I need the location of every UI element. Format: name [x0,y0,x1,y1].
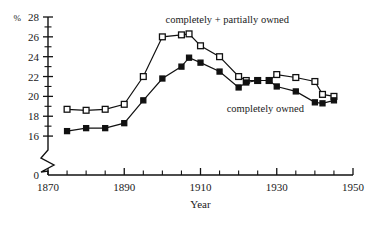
y-tick-label: 20 [28,90,40,102]
data-point-completely-owned-8 [198,60,203,65]
y-tick-label: 22 [28,71,39,83]
data-point-completely-owned-4 [141,98,146,103]
chart-container: 16182022242628%018701890191019301950Year… [0,0,379,228]
series-annotation-completely-owned: completely owned [227,103,305,114]
x-tick-label: 1930 [266,181,289,193]
data-point-completely-owned-0 [65,129,70,134]
x-tick-label: 1890 [113,181,136,193]
data-point-completely-partially-owned-3 [121,101,127,107]
y-tick-label: 26 [28,31,40,43]
data-point-completely-partially-owned-5 [159,34,165,40]
data-point-completely-owned-9 [217,69,222,74]
data-point-completely-owned-7 [187,55,192,60]
data-point-completely-owned-2 [103,126,108,131]
data-point-completely-partially-owned-2 [102,106,108,112]
data-point-completely-owned-11 [244,80,249,85]
series-annotation-completely-partially-owned: completely + partially owned [165,14,289,25]
data-point-completely-owned-18 [331,98,336,103]
data-point-completely-owned-15 [293,89,298,94]
x-tick-label: 1950 [342,181,365,193]
data-point-completely-owned-14 [274,84,279,89]
x-tick-label: 1870 [37,181,60,193]
data-point-completely-owned-17 [320,101,325,106]
y-tick-label: 16 [28,130,40,142]
data-point-completely-partially-owned-10 [236,74,242,80]
data-point-completely-owned-10 [236,85,241,90]
data-point-completely-partially-owned-1 [83,107,89,113]
data-point-completely-partially-owned-15 [293,75,299,81]
y-axis-unit-label: % [14,13,22,23]
data-point-completely-owned-16 [312,100,317,105]
y-zero-label: 0 [34,169,40,181]
data-point-completely-partially-owned-4 [140,74,146,80]
data-point-completely-owned-12 [255,78,260,83]
data-point-completely-partially-owned-14 [274,72,280,78]
data-point-completely-owned-3 [122,121,127,126]
data-point-completely-owned-6 [179,64,184,69]
data-point-completely-partially-owned-9 [217,54,223,60]
line-chart-svg: 16182022242628%018701890191019301950Year… [0,0,379,228]
data-point-completely-partially-owned-16 [312,79,318,85]
y-tick-label: 18 [28,110,40,122]
y-tick-label: 24 [28,51,40,63]
y-tick-label: 28 [28,11,40,23]
data-point-completely-partially-owned-7 [186,31,192,37]
data-point-completely-partially-owned-6 [179,32,185,38]
data-point-completely-owned-1 [84,126,89,131]
x-axis-title-text: Year [190,198,211,210]
data-point-completely-partially-owned-8 [198,43,204,49]
data-point-completely-owned-13 [267,78,272,83]
data-point-completely-owned-5 [160,76,165,81]
data-point-completely-partially-owned-17 [320,92,326,98]
x-tick-label: 1910 [190,181,213,193]
data-point-completely-partially-owned-0 [64,106,70,112]
